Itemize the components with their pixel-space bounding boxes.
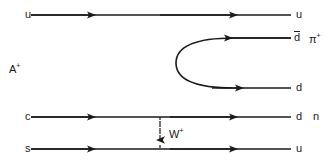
label-left-u-quark: u xyxy=(25,9,31,20)
label-right-d-quark: d xyxy=(296,82,302,93)
parent-hadron-charge: + xyxy=(16,62,20,69)
label-right-pion: π+ xyxy=(309,32,321,45)
label-parent-hadron: A+ xyxy=(9,62,20,75)
label-left-s-quark: s xyxy=(25,143,31,154)
label-left-c-quark: c xyxy=(25,111,31,122)
label-right-d-neutron: d xyxy=(296,111,302,122)
w-boson-symbol: W xyxy=(169,128,179,140)
label-right-u-out: u xyxy=(296,143,302,154)
pion-symbol: π xyxy=(309,33,317,45)
w-boson-charge: + xyxy=(179,127,183,134)
feynman-diagram-canvas xyxy=(0,0,329,166)
label-right-neutron: n xyxy=(313,111,319,122)
pion-charge: + xyxy=(317,32,321,39)
dbar-symbol: d xyxy=(294,31,300,43)
label-w-boson: W+ xyxy=(169,127,183,140)
quark-antiquark-loop xyxy=(176,38,234,88)
label-right-dbar: d xyxy=(294,31,300,43)
feynman-diagram: u A+ c s u d π+ d d n u W+ xyxy=(0,0,329,166)
label-right-u-spectator: u xyxy=(296,9,302,20)
